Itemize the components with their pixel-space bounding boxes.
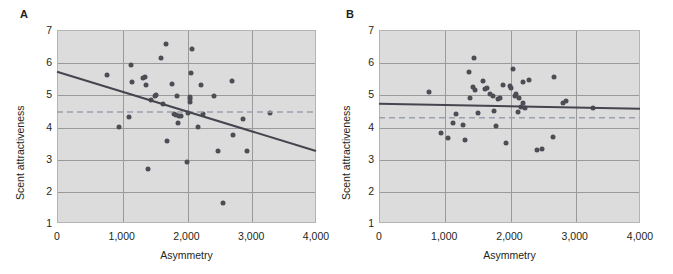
panel-a-label: A <box>20 8 28 20</box>
panel-b-label: B <box>346 8 354 20</box>
scatter-point <box>148 98 153 103</box>
scatter-point <box>564 99 569 104</box>
scatter-point <box>551 75 556 80</box>
y-axis-tick-label: 4 <box>36 121 52 133</box>
x-axis-tick-label: 1,000 <box>431 230 457 242</box>
figure-two-panel-scatter: A Scent attractiveness 123456701,0002,00… <box>0 0 673 274</box>
scatter-point <box>438 130 443 135</box>
scatter-point <box>185 110 190 115</box>
scatter-point <box>527 77 532 82</box>
scatter-point <box>174 93 179 98</box>
scatter-point <box>117 124 122 129</box>
scatter-point <box>198 82 203 87</box>
scatter-point <box>188 94 193 99</box>
x-axis-tick-label: 3,000 <box>238 230 264 242</box>
gridline-horizontal <box>380 160 639 161</box>
scatter-point <box>143 74 148 79</box>
y-axis-tick-label: 6 <box>36 56 52 68</box>
panel-a-x-axis-title: Asymmetry <box>57 249 316 261</box>
y-axis-tick-label: 6 <box>358 56 374 68</box>
gridline-vertical <box>123 31 124 222</box>
y-axis-tick-label: 1 <box>358 217 374 229</box>
scatter-point <box>510 67 515 72</box>
scatter-point <box>154 92 159 97</box>
y-axis-tick-label: 5 <box>36 88 52 100</box>
gridline-vertical <box>445 31 446 222</box>
scatter-point <box>461 122 466 127</box>
gridline-horizontal <box>380 128 639 129</box>
x-axis-tick-label: 4,000 <box>627 230 653 242</box>
y-axis-tick-label: 2 <box>36 185 52 197</box>
scatter-point <box>540 147 545 152</box>
scatter-point <box>130 80 135 85</box>
x-axis-tick-label: 4,000 <box>303 230 329 242</box>
scatter-point <box>467 69 472 74</box>
scatter-point <box>504 141 509 146</box>
y-axis-tick-label: 3 <box>358 153 374 165</box>
x-axis-tick-label: 0 <box>54 230 60 242</box>
y-axis-tick-label: 7 <box>358 24 374 36</box>
scatter-point <box>500 82 505 87</box>
scatter-point <box>126 115 131 120</box>
scatter-point <box>445 136 450 141</box>
scatter-point <box>215 148 220 153</box>
gridline-horizontal <box>380 192 639 193</box>
x-axis-tick-label: 2,000 <box>173 230 199 242</box>
scatter-point <box>241 116 246 121</box>
y-axis-tick-label: 4 <box>358 121 374 133</box>
y-axis-tick-label: 1 <box>36 217 52 229</box>
scatter-point <box>229 79 234 84</box>
scatter-point <box>145 167 150 172</box>
x-axis-tick-label: 2,000 <box>496 230 522 242</box>
scatter-point <box>176 120 181 125</box>
gridline-horizontal <box>58 63 315 64</box>
gridline-horizontal <box>380 95 639 96</box>
scatter-point <box>550 134 555 139</box>
scatter-point <box>468 96 473 101</box>
scatter-point <box>104 73 109 78</box>
gridline-vertical <box>576 31 577 222</box>
panel-b: B Scent attractiveness 123456701,0002,00… <box>333 0 673 274</box>
scatter-point <box>522 105 527 110</box>
scatter-point <box>490 93 495 98</box>
scatter-point <box>591 106 596 111</box>
y-axis-tick-label: 5 <box>358 88 374 100</box>
scatter-point <box>481 78 486 83</box>
scatter-point <box>212 93 217 98</box>
panel-b-y-axis-title: Scent attractiveness <box>340 105 352 200</box>
scatter-point <box>451 120 456 125</box>
y-axis-tick-label: 2 <box>358 185 374 197</box>
scatter-point <box>471 56 476 61</box>
gridline-horizontal <box>58 192 315 193</box>
y-axis-tick-label: 3 <box>36 153 52 165</box>
scatter-point <box>231 132 236 137</box>
scatter-point <box>158 56 163 61</box>
scatter-point <box>189 46 194 51</box>
scatter-point <box>184 159 189 164</box>
scatter-point <box>129 63 134 68</box>
panel-a: A Scent attractiveness 123456701,0002,00… <box>0 0 340 274</box>
scatter-point <box>268 110 273 115</box>
scatter-point <box>165 138 170 143</box>
scatter-point <box>508 85 513 90</box>
scatter-point <box>521 80 526 85</box>
scatter-point <box>164 41 169 46</box>
x-axis-tick-label: 0 <box>376 230 382 242</box>
scatter-point <box>463 138 468 143</box>
scatter-point <box>492 109 497 114</box>
scatter-point <box>472 87 477 92</box>
gridline-horizontal <box>58 128 315 129</box>
scatter-point <box>476 110 481 115</box>
gridline-horizontal <box>380 63 639 64</box>
scatter-point <box>196 125 201 130</box>
scatter-point <box>493 123 498 128</box>
x-axis-tick-label: 3,000 <box>562 230 588 242</box>
scatter-point <box>517 95 522 100</box>
scatter-point <box>170 81 175 86</box>
gridline-vertical <box>252 31 253 222</box>
panel-b-x-axis-title: Asymmetry <box>379 249 640 261</box>
scatter-point <box>200 111 205 116</box>
scatter-point <box>427 90 432 95</box>
scatter-point <box>161 101 166 106</box>
y-axis-tick-label: 7 <box>36 24 52 36</box>
